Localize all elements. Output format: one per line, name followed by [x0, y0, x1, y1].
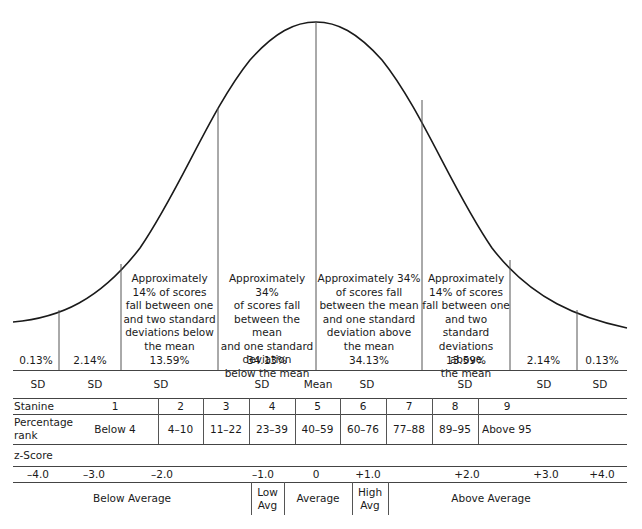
z-plus2: +2.0	[445, 466, 489, 482]
annotation-mean-plus1: Approximately 34% of scores fall between…	[316, 272, 422, 353]
stanine-3: 3	[203, 398, 249, 414]
rank-stanine-9: Above 95	[482, 414, 552, 444]
baseline-divider	[13, 370, 627, 371]
low-avg-label: Low Avg	[251, 482, 284, 515]
percent-region-6: 13.59%	[422, 354, 510, 366]
rank-stanine-3: 11–22	[203, 414, 249, 444]
rank-bottom-rule	[13, 444, 627, 445]
percent-region-1: 0.13%	[13, 354, 59, 366]
sd-label-minus1: SD	[242, 378, 282, 390]
below-average-label: Below Average	[13, 482, 251, 515]
z-plus4: +4.0	[580, 466, 624, 482]
rank-stanine-1: Below 4	[75, 414, 155, 444]
stanine-2: 2	[158, 398, 203, 414]
sd-label-plus2: SD	[445, 378, 485, 390]
rank-stanine-7: 77–88	[386, 414, 432, 444]
z-zero: 0	[296, 466, 336, 482]
sd-label-minus2: SD	[141, 378, 181, 390]
z-plus3: +3.0	[524, 466, 568, 482]
sd-label-minus3: SD	[75, 378, 115, 390]
high-avg-label: High Avg	[352, 482, 388, 515]
z-minus3: –3.0	[74, 466, 114, 482]
stanine-4: 4	[249, 398, 295, 414]
sd-label-plus4: SD	[580, 378, 620, 390]
percent-region-8: 0.13%	[577, 354, 627, 366]
z-minus2: –2.0	[142, 466, 182, 482]
percent-region-2: 2.14%	[59, 354, 121, 366]
stanine-9: 9	[478, 398, 536, 414]
rank-stanine-4: 23–39	[249, 414, 295, 444]
stanine-8: 8	[432, 398, 478, 414]
z-minus1: –1.0	[243, 466, 283, 482]
z-score-label: z-Score	[14, 449, 53, 462]
stanine-1: 1	[90, 398, 140, 414]
sd-label-plus3: SD	[524, 378, 564, 390]
stanine-6: 6	[340, 398, 386, 414]
mean-label: Mean	[296, 378, 340, 390]
z-minus4: –4.0	[18, 466, 58, 482]
percentage-rank-label: Percentage rank	[14, 416, 73, 442]
percent-region-4: 34.13%	[218, 354, 316, 366]
rank-stanine-5: 40–59	[295, 414, 340, 444]
above-average-label: Above Average	[388, 482, 594, 515]
percent-region-3: 13.59%	[121, 354, 218, 366]
percent-region-5: 34.13%	[316, 354, 422, 366]
stanine-5: 5	[295, 398, 340, 414]
rank-stanine-8: 89–95	[432, 414, 478, 444]
average-label: Average	[284, 482, 352, 515]
sd-label-minus4: SD	[18, 378, 58, 390]
stanine-7: 7	[386, 398, 432, 414]
sd-label-plus1: SD	[347, 378, 387, 390]
rank-stanine-6: 60–76	[340, 414, 386, 444]
rank-stanine-2: 4–10	[158, 414, 203, 444]
annotation-minus2-minus1: Approximately 14% of scores fall between…	[121, 272, 218, 353]
percent-region-7: 2.14%	[510, 354, 577, 366]
stanine-label: Stanine	[14, 400, 54, 413]
z-plus1: +1.0	[346, 466, 390, 482]
